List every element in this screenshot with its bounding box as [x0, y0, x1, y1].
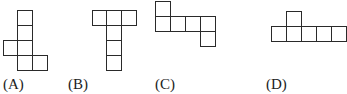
net-square — [286, 11, 302, 27]
net-square — [32, 55, 48, 71]
net-square — [121, 10, 137, 26]
net-square — [331, 26, 347, 42]
net-square — [155, 16, 171, 32]
option-d-label: (D) — [266, 76, 287, 93]
net-square — [155, 1, 171, 17]
option-b-label: (B) — [68, 76, 88, 93]
net-square — [106, 40, 122, 56]
net-square — [301, 26, 317, 42]
option-a-label: (A) — [3, 76, 24, 93]
net-square — [200, 31, 216, 47]
net-square — [200, 16, 216, 32]
net-square — [17, 55, 33, 71]
net-square — [316, 26, 332, 42]
net-square — [17, 40, 33, 56]
net-square — [185, 16, 201, 32]
net-square — [106, 25, 122, 41]
net-square — [170, 16, 186, 32]
net-square — [106, 10, 122, 26]
option-c-label: (C) — [155, 76, 175, 93]
net-square — [271, 26, 287, 42]
net-square — [17, 10, 33, 26]
net-square — [17, 25, 33, 41]
net-square — [286, 26, 302, 42]
net-square — [106, 55, 122, 71]
